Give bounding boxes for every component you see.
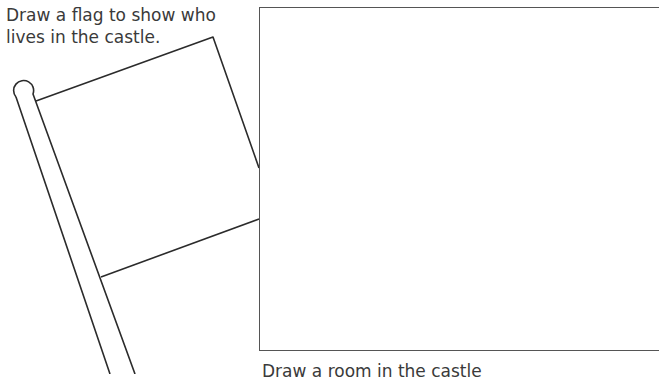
room-instruction-text: Draw a room in the castle	[262, 360, 482, 381]
flag-outline	[36, 37, 259, 168]
flag-bottom-edge	[101, 219, 259, 277]
room-drawing-area[interactable]	[259, 7, 659, 351]
flag-pole-icon	[14, 81, 135, 374]
